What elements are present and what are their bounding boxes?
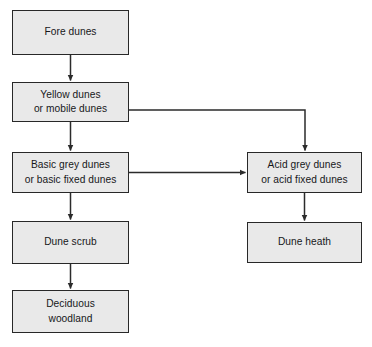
- node-dune-heath-label: Dune heath: [274, 235, 335, 249]
- node-fore-dunes-label: Fore dunes: [40, 25, 100, 39]
- node-acid-grey-dunes: Acid grey dunes or acid fixed dunes: [247, 152, 362, 193]
- node-dune-scrub-label: Dune scrub: [40, 235, 101, 249]
- node-acid-grey-dunes-label: Acid grey dunes or acid fixed dunes: [257, 158, 351, 186]
- node-dune-heath: Dune heath: [247, 222, 362, 263]
- node-deciduous-woodland: Deciduous woodland: [12, 290, 129, 333]
- dune-succession-flowchart: Fore dunes Yellow dunes or mobile dunes …: [0, 0, 372, 347]
- node-basic-grey-dunes: Basic grey dunes or basic fixed dunes: [12, 152, 129, 193]
- edge-yellow-dunes-to-acid-grey-dunes: [129, 110, 305, 151]
- node-fore-dunes: Fore dunes: [12, 10, 129, 55]
- node-deciduous-woodland-label: Deciduous woodland: [42, 297, 99, 325]
- node-yellow-dunes-label: Yellow dunes or mobile dunes: [30, 88, 111, 116]
- node-yellow-dunes: Yellow dunes or mobile dunes: [12, 82, 129, 122]
- node-basic-grey-dunes-label: Basic grey dunes or basic fixed dunes: [21, 158, 121, 186]
- node-dune-scrub: Dune scrub: [12, 221, 129, 264]
